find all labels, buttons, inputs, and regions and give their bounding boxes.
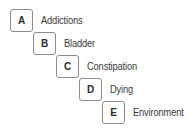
list-item[interactable]: B Bladder [33, 32, 97, 55]
letter-box-c-text: C [64, 62, 71, 72]
list-item[interactable]: C Constipation [56, 55, 141, 78]
list-item[interactable]: E Environment [102, 101, 187, 124]
letter-box-d[interactable]: D [79, 78, 102, 101]
letter-box-c[interactable]: C [56, 55, 79, 78]
letter-box-e[interactable]: E [102, 101, 125, 124]
list-item-label-environment: Environment [133, 108, 184, 118]
letter-box-e-text: E [110, 108, 117, 118]
list-item-label-constipation: Constipation [87, 62, 137, 72]
list-item[interactable]: A Addictions [10, 9, 86, 32]
list-item-label-bladder: Bladder [64, 39, 95, 49]
letter-box-b-text: B [41, 39, 48, 49]
staircase-index-list: A Addictions B Bladder C Constipation D … [0, 0, 187, 136]
list-item-label-dying: Dying [110, 85, 133, 95]
list-item[interactable]: D Dying [79, 78, 135, 101]
letter-box-d-text: D [87, 85, 94, 95]
letter-box-a[interactable]: A [10, 9, 33, 32]
letter-box-a-text: A [18, 16, 25, 26]
list-item-label-addictions: Addictions [41, 16, 83, 26]
letter-box-b[interactable]: B [33, 32, 56, 55]
